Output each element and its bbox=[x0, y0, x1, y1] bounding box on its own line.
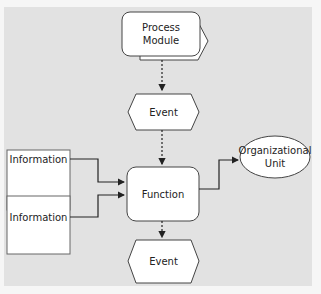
edge-info2-to-function bbox=[70, 195, 124, 217]
function-label: Function bbox=[127, 167, 199, 221]
process-module-label: Process Module bbox=[122, 14, 200, 54]
edge-info1-to-function bbox=[70, 159, 124, 182]
process-module-line1: Process bbox=[142, 21, 180, 34]
org-unit-line1: Organizational bbox=[239, 144, 312, 157]
org-unit-label: Organizational Unit bbox=[240, 137, 310, 177]
org-unit-line2: Unit bbox=[265, 157, 285, 170]
process-module-line2: Module bbox=[143, 34, 179, 47]
edge-function-to-orgunit bbox=[199, 160, 238, 189]
information-2-label: Information bbox=[7, 208, 70, 226]
information-1-label: Information bbox=[7, 150, 70, 168]
event-bottom-label: Event bbox=[128, 240, 199, 283]
event-top-label: Event bbox=[128, 94, 199, 130]
